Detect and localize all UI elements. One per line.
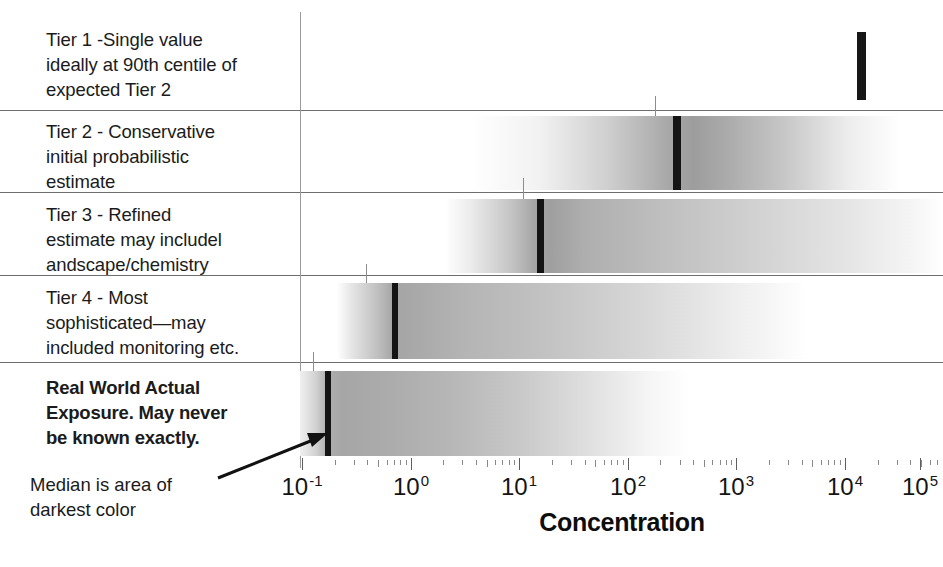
- axis-tick-minor: [834, 460, 835, 465]
- axis-tick-minor: [704, 460, 705, 467]
- tier-3-median-bar: [537, 199, 544, 273]
- row-label-line: andscape/chemistry: [46, 252, 296, 277]
- axis-tick-minor: [604, 460, 605, 465]
- axis-tick-minor: [660, 460, 661, 465]
- tier-2-median-bar: [673, 116, 681, 190]
- axis-tick-minor: [387, 460, 388, 465]
- tier-4-distribution-band: [337, 283, 807, 359]
- row-label-line: estimate: [46, 169, 296, 194]
- axis-tick-minor: [443, 460, 444, 465]
- axis-tick-label: 100: [393, 473, 429, 501]
- row-label-tier-2: Tier 2 - Conservative initial probabilis…: [46, 119, 296, 194]
- row-label-line: ideally at 90th centile of: [46, 52, 296, 77]
- row-label-line: initial probabilistic: [46, 144, 296, 169]
- row-label-line: estimate may includel: [46, 227, 296, 252]
- row-label-line: sophisticated—may: [46, 310, 296, 335]
- axis-label-base: 10: [281, 473, 308, 500]
- axis-label-exponent: 1: [529, 472, 537, 489]
- row-label-real-world: Real World Actual Exposure. May never be…: [46, 375, 296, 450]
- axis-label-exponent: 4: [855, 472, 863, 489]
- row-label-line: included monitoring etc.: [46, 335, 296, 360]
- figure-root: Tier 1 -Single value ideally at 90th cen…: [0, 0, 943, 567]
- axis-tick-label: 101: [501, 473, 537, 501]
- tier-2-band-gradient: [470, 116, 900, 190]
- tier-2-distribution-band: [470, 116, 900, 190]
- row-label-tier-4: Tier 4 - Most sophisticated—may included…: [46, 285, 296, 360]
- axis-tick-minor: [802, 460, 803, 465]
- axis-tick-label: 105: [902, 473, 938, 501]
- axis-label-base: 10: [501, 473, 528, 500]
- median-note-line: Median is area of: [30, 472, 245, 497]
- axis-tick-minor: [514, 460, 515, 465]
- axis-tick-minor: [623, 460, 624, 465]
- axis-tick-minor: [617, 460, 618, 465]
- axis-tick-major: [519, 458, 520, 470]
- row-label-line: Tier 3 - Refined: [46, 202, 296, 227]
- median-annotation-text: Median is area of darkest color: [30, 472, 245, 522]
- axis-label-exponent: 2: [638, 472, 646, 489]
- axis-tick-minor: [476, 460, 477, 465]
- axis-tick-minor: [487, 460, 488, 467]
- axis-label-base: 10: [610, 473, 637, 500]
- row-label-line: Tier 1 -Single value: [46, 27, 296, 52]
- axis-label-base: 10: [393, 473, 420, 500]
- median-note-line: darkest color: [30, 497, 245, 522]
- row-separator: [0, 362, 943, 363]
- axis-tick-minor: [595, 460, 596, 467]
- real-world-distribution-band: [300, 371, 690, 456]
- axis-tick-minor: [509, 460, 510, 465]
- axis-label-exponent: 3: [746, 472, 754, 489]
- axis-tick-minor: [878, 460, 879, 465]
- axis-tick-minor: [828, 460, 829, 465]
- axis-tick-label: 104: [827, 473, 863, 501]
- axis-tick-minor: [788, 460, 789, 465]
- row-label-line: expected Tier 2: [46, 77, 296, 102]
- axis-tick-minor: [769, 460, 770, 465]
- axis-tick-label: 102: [610, 473, 646, 501]
- axis-tick-minor: [335, 460, 336, 465]
- axis-tick-minor: [378, 460, 379, 467]
- axis-label-base: 10: [718, 473, 745, 500]
- axis-tick-major: [628, 458, 629, 470]
- row-label-tier-3: Tier 3 - Refined estimate may includel a…: [46, 202, 296, 277]
- axis-label-exponent: 0: [421, 472, 429, 489]
- axis-tick-major: [845, 458, 846, 470]
- axis-tick-minor: [400, 460, 401, 465]
- axis-title: Concentration: [539, 508, 705, 537]
- axis-tick-minor: [585, 460, 586, 465]
- tier-4-median-bar: [392, 283, 398, 359]
- axis-tick-minor: [552, 460, 553, 465]
- axis-tick-minor: [611, 460, 612, 465]
- axis-tick-label: 103: [718, 473, 754, 501]
- axis-tick-minor: [812, 460, 813, 467]
- axis-label-base: 10: [827, 473, 854, 500]
- tier-3-band-gradient: [445, 199, 943, 273]
- axis-tick-minor: [712, 460, 713, 465]
- axis-tick-major: [736, 458, 737, 470]
- axis-tick-major: [411, 458, 412, 470]
- axis-tick-minor: [354, 460, 355, 465]
- axis-tick-major: [302, 458, 303, 470]
- axis-tick-minor: [821, 460, 822, 465]
- axis-tick-minor: [394, 460, 395, 465]
- axis-tick-minor: [937, 460, 938, 465]
- axis-tick-minor: [930, 460, 931, 465]
- axis-label-exponent: 5: [930, 472, 938, 489]
- axis-tick-minor: [720, 460, 721, 465]
- axis-tick-minor: [571, 460, 572, 465]
- tier-4-band-gradient: [337, 283, 807, 359]
- real-world-band-gradient: [300, 371, 690, 456]
- axis-tick-minor: [502, 460, 503, 465]
- real-world-median-bar: [325, 371, 331, 456]
- axis-tick-minor: [406, 460, 407, 465]
- axis-tick-minor: [693, 460, 694, 465]
- row-label-line: be known exactly.: [46, 425, 296, 450]
- axis-tick-minor: [921, 460, 922, 467]
- row-label-tier-1: Tier 1 -Single value ideally at 90th cen…: [46, 27, 296, 102]
- row-label-line: Tier 2 - Conservative: [46, 119, 296, 144]
- row-label-line: Real World Actual: [46, 375, 296, 400]
- axis-tick-minor: [910, 460, 911, 465]
- tier-1-single-value-bar: [857, 32, 866, 100]
- tier-3-distribution-band: [445, 199, 943, 273]
- row-label-line: Exposure. May never: [46, 400, 296, 425]
